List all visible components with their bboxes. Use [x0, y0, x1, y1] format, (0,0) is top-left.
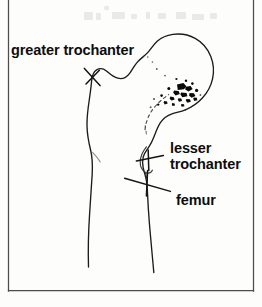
label-greater-trochanter: greater trochanter — [11, 42, 134, 58]
label-lesser-trochanter: lesser trochanter — [170, 140, 241, 172]
femoral-neck-lesion — [145, 56, 201, 134]
label-leader-lines — [84, 68, 170, 196]
label-lesser-trochanter-line2: trochanter — [170, 156, 241, 172]
label-femur: femur — [176, 192, 216, 208]
leader-lesser-trochanter-cross — [148, 150, 149, 170]
figure-container: greater trochanter lesser trochanter fem… — [0, 0, 262, 307]
label-lesser-trochanter-line1: lesser — [170, 140, 241, 156]
scan-bleed-through-text — [62, 8, 242, 24]
